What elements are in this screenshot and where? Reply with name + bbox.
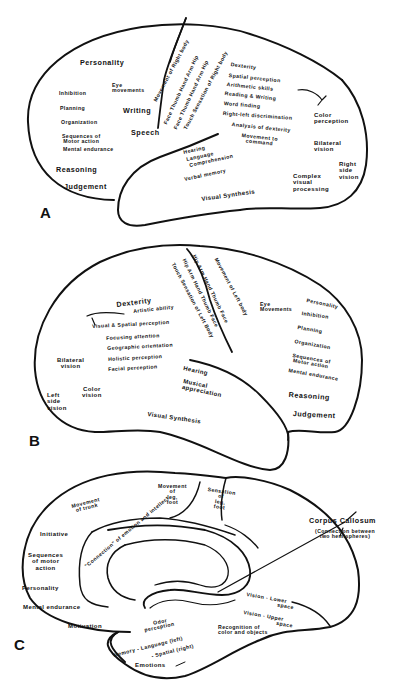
label-emotions: Emotions [135, 662, 166, 668]
label-corpus-callosum-description: (Connection betweentwo hemispheres) [315, 529, 375, 540]
label-sensation-leg-foot: Sensationofleg,foot [205, 487, 236, 513]
label-mental-endurance: Mental endurance [63, 147, 114, 152]
label-color-perception: Colorperception [314, 112, 349, 125]
panel-a-letter: A [40, 205, 51, 221]
label-left-side-vision: Leftsidevision [47, 392, 67, 411]
label-complex-visual-processing: Complexvisualprocessing [293, 173, 329, 192]
label-mental-endurance-c: Mental endurance [23, 604, 80, 610]
label-sequences-motor-action: Sequences ofMotor action [62, 134, 101, 145]
label-eye-movements: Eyemovements [112, 83, 144, 94]
label-judgement: Judgement [64, 183, 107, 191]
label-inhibition: Inhibition [59, 91, 86, 96]
label-judgement-b: Judgement [293, 410, 336, 420]
label-personality-c: Personality [22, 585, 59, 591]
label-recognition-color-objects: Recognition ofcolor and objects [218, 625, 268, 636]
label-bilateral-vision-b: Bilateralvision [57, 357, 84, 370]
label-eye-movements-b: EyeMovements [260, 302, 292, 313]
label-planning: Planning [60, 106, 85, 111]
label-personality: Personality [80, 59, 124, 67]
panel-c-letter: C [14, 637, 25, 653]
label-speech: Speech [131, 129, 160, 137]
label-right-side-vision: Rightsidevision [339, 161, 359, 180]
label-reasoning: Reasoning [56, 166, 97, 174]
label-corpus-callosum: Corpus Callosum [309, 517, 376, 525]
panel-b-letter: B [29, 433, 40, 449]
label-bilateral-vision: Bilateralvision [314, 140, 341, 153]
label-color-vision-b: Colorvision [82, 386, 102, 399]
label-sequences-of-motor-action-c: Sequencesof motoraction [28, 552, 63, 571]
label-initiative: Initiative [40, 531, 68, 537]
label-motivation: Motivation [68, 623, 102, 629]
label-writing: Writing [123, 107, 151, 115]
panel-a-outline [27, 18, 367, 234]
label-organization: Organization [61, 120, 98, 125]
